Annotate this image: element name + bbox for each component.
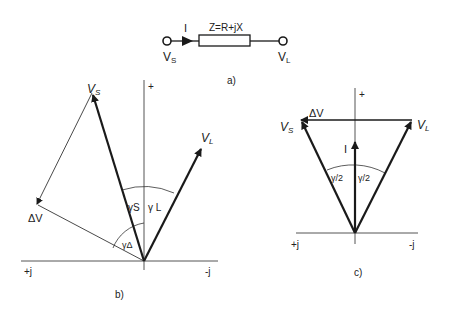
load-voltage-label: VL bbox=[278, 50, 291, 65]
source-terminal bbox=[163, 37, 171, 45]
caption-a: a) bbox=[227, 75, 236, 86]
gamma-delta-label: γΔ bbox=[122, 240, 133, 250]
phasor-diagram: I Z=R+jX VS VL a) + +j -j VS VL ΔV γS γ … bbox=[0, 0, 450, 315]
vl-label: VL bbox=[201, 131, 213, 146]
impedance-box bbox=[199, 35, 250, 46]
current-label: I bbox=[184, 22, 187, 34]
axis-neg-j-label-c: -j bbox=[409, 239, 415, 250]
impedance-label: Z=R+jX bbox=[209, 22, 243, 33]
axis-plus-label-c: + bbox=[359, 89, 365, 100]
vl-label-c: VL bbox=[417, 118, 429, 133]
delta-v-reference-line bbox=[38, 205, 144, 261]
delta-v-vector bbox=[37, 93, 92, 204]
vs-label: VS bbox=[87, 82, 101, 97]
vs-vector bbox=[93, 95, 144, 261]
gamma-l-label: γ L bbox=[148, 202, 162, 213]
gamma-half-right-label: γ/2 bbox=[358, 173, 370, 183]
gamma-half-left-label: γ/2 bbox=[331, 173, 343, 183]
axis-pos-j-label-c: +j bbox=[291, 239, 299, 250]
vs-label-c: VS bbox=[280, 120, 294, 135]
phasor-panel-b: + +j -j VS VL ΔV γS γ L γΔ b) bbox=[21, 80, 218, 300]
caption-c: c) bbox=[354, 267, 362, 278]
phasor-panel-c: + +j -j VS VL ΔV I γ/2 γ/2 c) bbox=[280, 88, 429, 278]
caption-b: b) bbox=[115, 289, 124, 300]
current-arrow-icon bbox=[182, 36, 193, 46]
delta-v-label: ΔV bbox=[28, 212, 43, 224]
delta-v-label-c: ΔV bbox=[309, 107, 324, 119]
axis-plus-label: + bbox=[148, 81, 154, 92]
gamma-sl-arc bbox=[122, 187, 174, 193]
axis-neg-j-label: -j bbox=[205, 266, 211, 277]
load-terminal bbox=[279, 37, 287, 45]
vs-vector-c bbox=[302, 122, 355, 233]
current-label-c: I bbox=[344, 143, 347, 155]
source-voltage-label: VS bbox=[163, 50, 176, 65]
circuit-panel-a: I Z=R+jX VS VL a) bbox=[163, 22, 291, 86]
gamma-s-label: γS bbox=[128, 202, 140, 213]
axis-pos-j-label: +j bbox=[24, 266, 32, 277]
